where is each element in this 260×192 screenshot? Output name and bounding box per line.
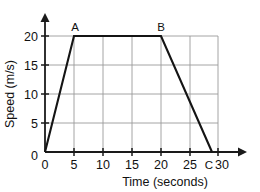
x-tick-label-0: 0	[42, 158, 49, 172]
y-tick-label-5: 5	[31, 117, 38, 131]
x-tick-label-10: 10	[96, 158, 110, 172]
point-label-b: B	[157, 21, 165, 33]
x-axis-arrow-icon	[238, 148, 247, 157]
y-tick-label-20: 20	[24, 30, 38, 44]
x-tick-labels: 0 5 10 15 20 25 30	[42, 158, 229, 172]
chart-canvas: 20 15 10 5 0 0 5 10 15 20 25 30 A B C Ti…	[0, 0, 260, 192]
point-label-c: C	[205, 159, 213, 171]
speed-time-chart: 20 15 10 5 0 0 5 10 15 20 25 30 A B C Ti…	[0, 0, 260, 192]
y-tick-label-0: 0	[31, 149, 38, 163]
y-tick-label-10: 10	[24, 88, 38, 102]
x-tick-label-20: 20	[154, 158, 168, 172]
y-tick-labels: 20 15 10 5 0	[24, 30, 38, 163]
x-tick-label-15: 15	[125, 158, 139, 172]
x-tick-label-25: 25	[183, 158, 197, 172]
axes	[41, 13, 248, 157]
x-tick-label-30: 30	[215, 158, 229, 172]
point-annotations: A B C	[71, 21, 213, 171]
point-label-a: A	[71, 21, 79, 33]
x-tick-label-5: 5	[71, 158, 78, 172]
y-axis-arrow-icon	[41, 13, 50, 22]
y-tick-label-15: 15	[24, 59, 38, 73]
y-axis-title: Speed (m/s)	[3, 60, 17, 128]
x-axis-title: Time (seconds)	[122, 175, 208, 189]
